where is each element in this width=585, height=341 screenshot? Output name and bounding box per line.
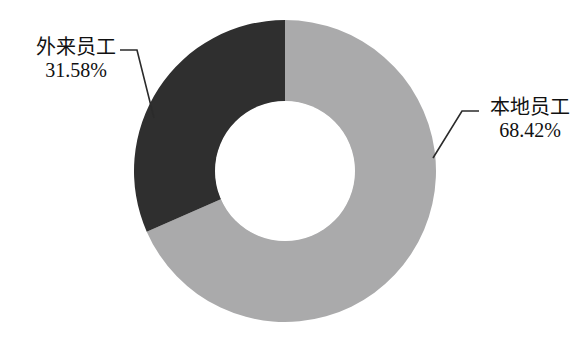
label-external-employees-name: 外来员工 [28,36,124,59]
label-external-employees: 外来员工 31.58% [28,36,124,82]
label-external-employees-value: 31.58% [28,59,124,82]
label-local-employees-name: 本地员工 [481,96,579,119]
donut-chart-page: 外来员工 31.58% 本地员工 68.42% [0,0,585,341]
label-local-employees-value: 68.42% [481,119,579,142]
leader-line-local-employees [433,111,479,158]
label-local-employees: 本地员工 68.42% [481,96,579,142]
donut-center-hole [215,101,355,241]
